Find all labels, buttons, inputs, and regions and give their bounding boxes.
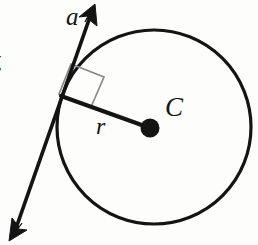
geometry-figure: a r C ⁄. [0,0,258,245]
center-point-dot [141,119,160,138]
circle-tangent-diagram-svg [0,0,258,245]
radius-line [61,96,150,128]
clipped-margin-text: ⁄. [0,52,3,75]
tangent-line-label: a [66,4,79,29]
tangent-line [15,14,91,231]
center-label: C [165,94,183,121]
radius-label: r [96,114,105,138]
